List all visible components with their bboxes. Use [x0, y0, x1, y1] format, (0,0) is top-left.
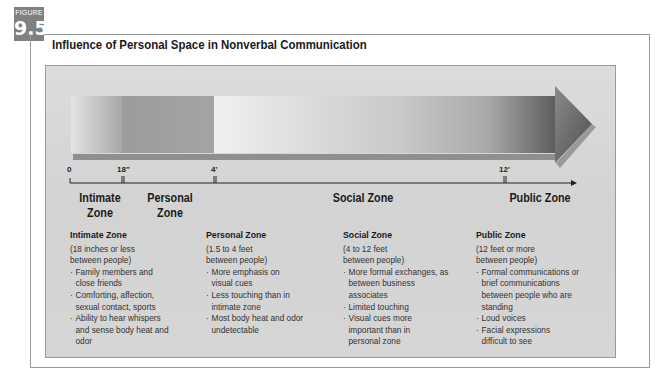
axis-arrow-icon	[571, 180, 577, 186]
zone-label-line: Intimate	[73, 191, 127, 206]
column-heading: Public Zone	[476, 229, 591, 241]
tick-12ft: 12'	[499, 165, 510, 174]
range-text: between people)	[70, 255, 199, 267]
bullet-item: More emphasis on visual cues	[206, 267, 294, 290]
arrow-shadow	[73, 154, 558, 160]
zone-label-line: Zone	[73, 206, 127, 221]
column-heading: Personal Zone	[206, 229, 326, 241]
tick-18in: 18"	[117, 165, 130, 174]
bullet-item: Visual cues more important than in perso…	[343, 313, 422, 348]
zone-label-line: Zone	[143, 206, 197, 221]
personal-zone-description: Personal Zone (1.5 to 4 feet between peo…	[206, 229, 326, 336]
public-zone-description: Public Zone (12 feet or more between peo…	[476, 229, 591, 348]
bullet-item: Loud voices	[476, 313, 587, 325]
social-public-zone-bar	[214, 96, 556, 153]
social-zone-description: Social Zone (4 to 12 feet between people…	[343, 229, 458, 348]
zone-label-line: Personal	[143, 191, 197, 206]
range-text: (4 to 12 feet	[343, 244, 458, 256]
bullet-item: Less touching than in intimate zone	[206, 290, 313, 313]
bullet-item: Family members and close friends	[70, 267, 163, 290]
bullet-item: Limited touching	[343, 302, 452, 314]
tick-0: 0	[67, 165, 71, 174]
tick-4ft: 4'	[211, 165, 217, 174]
zone-label-personal: Personal Zone	[143, 191, 197, 221]
column-heading: Intimate Zone	[70, 229, 199, 241]
zone-label-public: Public Zone	[504, 191, 576, 206]
intimate-zone-bar	[71, 96, 123, 153]
range-text: between people)	[343, 255, 458, 267]
personal-zone-bar	[122, 96, 214, 153]
range-text: (1.5 to 4 feet	[206, 244, 326, 256]
bullet-item: Facial expressions difficult to see	[476, 325, 560, 348]
column-heading: Social Zone	[343, 229, 458, 241]
bullet-item: Most body heat and odor undetectable	[206, 313, 327, 336]
bullet-item: Ability to hear whispers and sense body …	[70, 313, 175, 348]
range-text: (18 inches or less	[70, 244, 199, 256]
bullet-item: Formal communications or brief communica…	[476, 267, 587, 313]
zone-label-social: Social Zone	[323, 191, 404, 206]
range-text: between people)	[476, 255, 591, 267]
bullet-item: Comforting, affection, sexual contact, s…	[70, 290, 175, 313]
range-text: between people)	[206, 255, 326, 267]
bullet-item: More formal exchanges, as between busine…	[343, 267, 452, 302]
intimate-zone-description: Intimate Zone (18 inches or less between…	[70, 229, 199, 348]
range-text: (12 feet or more	[476, 244, 591, 256]
zone-label-intimate: Intimate Zone	[73, 191, 127, 221]
